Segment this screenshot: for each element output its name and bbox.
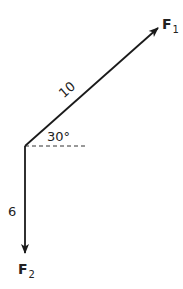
vector-f1-magnitude-label: 10: [56, 79, 78, 101]
vector-f1-label: F1: [162, 16, 179, 35]
vector-f2-label-name: F: [18, 261, 28, 277]
vector-f1-label-subscript: 1: [173, 24, 179, 35]
vector-f2-label: F2: [18, 261, 35, 280]
force-diagram: 10 30° 6 F1 F2: [0, 0, 183, 289]
vector-f2-label-subscript: 2: [29, 269, 35, 280]
vector-f2-magnitude-label: 6: [8, 204, 16, 219]
angle-label: 30°: [47, 129, 70, 144]
vector-f1-label-name: F: [162, 16, 172, 32]
vector-f1-arrow: [25, 28, 158, 146]
